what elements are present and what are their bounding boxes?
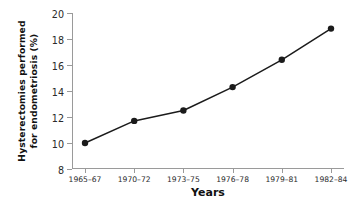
data-point [180, 107, 186, 113]
y-axis-title-line2: for endometriosis (%) [28, 34, 39, 149]
y-tick-label: 18 [52, 34, 64, 45]
data-point [131, 118, 137, 124]
y-tick-label: 16 [52, 60, 64, 71]
x-axis-title: Years [72, 186, 344, 199]
x-tick-label: 1979–81 [265, 175, 298, 184]
y-axis-title: Hysterectomies performed for endometrios… [6, 6, 48, 176]
chart-figure: Hysterectomies performed for endometrios… [0, 0, 357, 213]
y-tick-label: 12 [52, 112, 64, 123]
x-tick-label: 1965–67 [69, 175, 102, 184]
series-line [85, 29, 331, 143]
x-tick-label: 1970–72 [118, 175, 151, 184]
plot-area: 8101214161820 1965–671970–721973–751976–… [72, 13, 344, 168]
x-tick-label: 1982–84 [315, 175, 348, 184]
y-tick-label: 20 [52, 8, 64, 19]
y-tick: 8 [67, 169, 72, 170]
y-tick-label: 14 [52, 86, 64, 97]
data-point [328, 25, 334, 31]
data-point [229, 84, 235, 90]
y-tick-label: 10 [52, 138, 64, 149]
data-point [82, 140, 88, 146]
x-tick-label: 1973–75 [167, 175, 200, 184]
y-tick-label: 8 [58, 164, 64, 175]
data-point [279, 57, 285, 63]
data-series [72, 13, 344, 169]
y-axis-title-line1: Hysterectomies performed [16, 20, 27, 161]
x-tick-label: 1976–78 [216, 175, 249, 184]
